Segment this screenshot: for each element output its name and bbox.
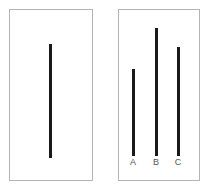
single-bar-plot-area	[10, 10, 92, 180]
single-bar-panel	[9, 9, 93, 181]
grouped-bar-plot-area: A B C	[119, 10, 199, 180]
bar-label-a: A	[126, 157, 140, 168]
bar-a	[132, 69, 135, 156]
grouped-bar-panel: A B C	[118, 9, 200, 181]
bar-label-c: C	[171, 157, 185, 168]
figure-canvas: A B C	[0, 0, 208, 194]
bar-b	[155, 28, 158, 156]
bar-label-b: B	[149, 157, 163, 168]
bar-c	[177, 47, 180, 156]
bar-single	[49, 44, 52, 158]
